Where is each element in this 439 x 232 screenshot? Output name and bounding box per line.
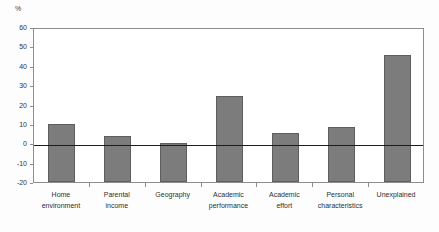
bar[interactable] [272, 133, 299, 182]
chart-page: % 6050403020100-10-20 Home environmentPa… [0, 0, 439, 232]
y-axis-tick-label: 30 [19, 81, 27, 90]
bar-slot [104, 29, 131, 182]
x-axis-tick-mark [368, 183, 369, 187]
bar-slot [272, 29, 299, 182]
x-axis-tick-mark [201, 183, 202, 187]
x-axis-category-label: Academic effort [256, 190, 312, 211]
x-axis-category-label: Parental income [89, 190, 145, 211]
y-axis-unit-label: % [15, 4, 21, 13]
y-axis-tick-label: 40 [19, 62, 27, 71]
x-axis-category-label: Personal characteristics [312, 190, 368, 211]
y-axis: 6050403020100-10-20 [0, 28, 33, 183]
x-axis-tick-mark [312, 183, 313, 187]
y-axis-tick-label: -10 [17, 159, 27, 168]
bar[interactable] [384, 55, 411, 182]
x-axis-tick-mark [145, 183, 146, 187]
y-axis-tick-label: 20 [19, 101, 27, 110]
zero-reference-line [34, 145, 423, 146]
bar[interactable] [48, 124, 75, 182]
x-axis-tick-mark [89, 183, 90, 187]
y-axis-tick-label: -20 [17, 178, 27, 187]
plot-inner [34, 29, 423, 182]
bar-slot [328, 29, 355, 182]
x-axis-tick-mark [256, 183, 257, 187]
y-axis-tick-label: 60 [19, 23, 27, 32]
x-axis-category-label: Geography [145, 190, 201, 201]
x-axis: Home environmentParental incomeGeography… [33, 183, 424, 232]
y-axis-tick-label: 10 [19, 120, 27, 129]
y-axis-tick-label: 50 [19, 42, 27, 51]
plot-area [33, 28, 424, 183]
bar-slot [48, 29, 75, 182]
bar[interactable] [328, 127, 355, 182]
bar[interactable] [216, 96, 243, 182]
x-axis-category-label: Unexplained [368, 190, 424, 201]
x-axis-category-label: Academic performance [201, 190, 257, 211]
y-axis-tick-label: 0 [23, 139, 27, 148]
bar-slot [160, 29, 187, 182]
bar[interactable] [160, 143, 187, 182]
x-axis-category-label: Home environment [33, 190, 89, 211]
bar-slot [384, 29, 411, 182]
bar-slot [216, 29, 243, 182]
bar[interactable] [104, 136, 131, 183]
